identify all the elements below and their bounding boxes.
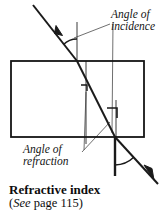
caption-reference: (See page 115)	[9, 197, 159, 210]
label-angle-of-incidence-line1: Angle of	[111, 9, 155, 21]
caption-see-word: See	[13, 196, 30, 210]
label-angle-of-refraction: Angle of refraction	[23, 144, 69, 167]
figure-caption: Refractive index (See page 115)	[9, 183, 159, 210]
caption-page-ref: page 115)	[31, 196, 83, 210]
leader-line-incidence-upper	[74, 24, 110, 38]
glass-block	[11, 61, 144, 137]
label-angle-of-refraction-line1: Angle of	[23, 144, 69, 156]
angle-of-incidence-arc	[64, 39, 78, 45]
refracted-ray	[77, 61, 115, 137]
leader-line-incidence-lower	[112, 22, 113, 133]
caption-title: Refractive index	[9, 183, 159, 197]
angle-of-emergence-arc	[115, 157, 134, 165]
label-angle-of-incidence-line2: incidence	[111, 21, 155, 33]
label-angle-of-refraction-line2: refraction	[23, 156, 69, 168]
incident-ray-arrowhead	[55, 26, 63, 36]
label-angle-of-incidence: Angle of incidence	[111, 9, 155, 32]
figure-panel: Angle of incidence Angle of refraction R…	[0, 0, 166, 213]
emergent-ray-arrowhead	[144, 165, 154, 180]
